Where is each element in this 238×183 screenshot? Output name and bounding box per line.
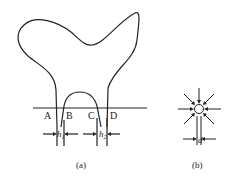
label-d: D xyxy=(110,110,117,121)
figure-a xyxy=(18,13,147,146)
label-b: B xyxy=(66,110,73,121)
diagram: A B C D h1 h2 (a) d (b) xyxy=(0,0,238,183)
sink-circle xyxy=(195,105,204,114)
caption-a: (a) xyxy=(76,160,86,170)
label-a: A xyxy=(44,110,52,121)
label-d: d xyxy=(198,135,203,145)
label-h1: h1 xyxy=(57,129,65,140)
label-h2: h2 xyxy=(99,129,107,140)
label-c: C xyxy=(88,110,95,121)
caption-b: (b) xyxy=(192,160,203,170)
blob-outline xyxy=(18,13,139,127)
